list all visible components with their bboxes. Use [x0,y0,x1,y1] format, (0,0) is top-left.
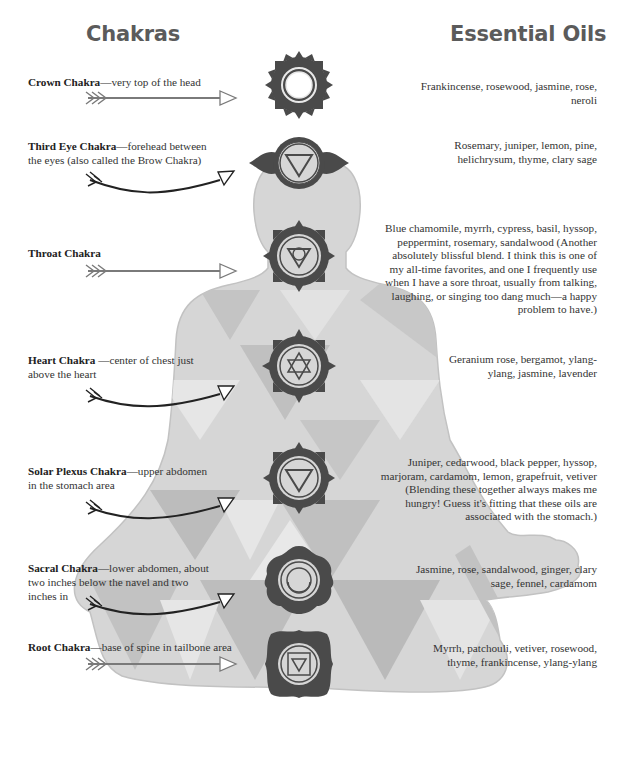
chakra-name: Root Chakra [28,641,90,653]
chakra-name: Heart Chakra [28,354,95,366]
solar-plexus-chakra-icon [263,442,335,514]
arrow-crown [86,91,236,105]
throat-chakra-oils: Blue chamomile, myrrh, cypress, basil, h… [377,222,597,317]
heart-chakra-oils: Geranium rose, bergamot, ylang-ylang, ja… [427,353,597,380]
crown-chakra-icon [265,51,333,119]
chakra-name: Crown Chakra [28,76,100,88]
solar-plexus-chakra-oils: Juniper, cedarwood, black pepper, hyssop… [375,456,597,524]
heart-chakra-icon [262,329,336,403]
sacral-chakra-oils: Jasmine, rose, sandalwood, ginger, clary… [407,563,597,590]
arrow-third-eye [86,171,234,192]
chakra-name: Sacral Chakra [28,562,98,574]
root-chakra-icon [265,630,333,698]
throat-chakra-label: Throat Chakra [28,246,238,260]
root-chakra-oils: Myrrh, patchouli, vetiver, rosewood, thy… [407,642,597,669]
chakra-name: Third Eye Chakra [28,140,116,152]
chakra-description: —base of spine in tailbone area [90,641,231,653]
third-eye-chakra-label: Third Eye Chakra—forehead between the ey… [28,139,213,167]
crown-chakra-oils: Frankincense, rosewood, jasmine, rose, n… [397,80,597,107]
chakra-description: —very top of the head [100,76,201,88]
chakra-name: Throat Chakra [28,247,101,259]
crown-chakra-label: Crown Chakra—very top of the head [28,75,238,89]
chakras-heading: Chakras [86,22,180,46]
essential-oils-heading: Essential Oils [450,22,606,46]
throat-chakra-icon [263,220,335,292]
solar-plexus-chakra-label: Solar Plexus Chakra—upper abdomen in the… [28,464,208,492]
arrow-throat [86,264,236,278]
third-eye-chakra-oils: Rosemary, juniper, lemon, pine, helichry… [401,139,597,166]
chakra-name: Solar Plexus Chakra [28,465,127,477]
sacral-chakra-label: Sacral Chakra—lower abdomen, about two i… [28,561,213,603]
heart-chakra-label: Heart Chakra —center of chest just above… [28,353,208,381]
root-chakra-label: Root Chakra—base of spine in tailbone ar… [28,640,238,654]
